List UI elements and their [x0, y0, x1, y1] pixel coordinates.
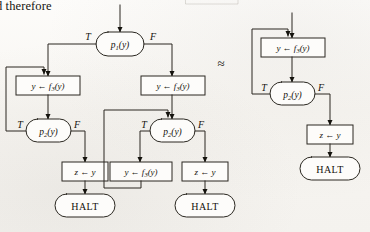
- equivalence-symbol: ≈: [217, 56, 224, 71]
- node-label-assignment-z-left: z ← y: [74, 167, 96, 177]
- cropped-box-artifact: [186, 0, 238, 4]
- edge-label-p2-left-true: T: [17, 119, 24, 130]
- node-label-assignment-loop-false: y ← f3(y): [123, 167, 157, 178]
- node-label-p2-right: p2(y): [162, 127, 182, 138]
- edge-label-p2-rightchart-true: T: [261, 82, 268, 93]
- node-label-assignment-right-top: y ← f3(y): [275, 43, 309, 54]
- node-label-p1: p1(y): [110, 40, 130, 51]
- edge-p1-true: [48, 44, 96, 76]
- edge-label-p2-rightchart-false: F: [317, 82, 325, 93]
- node-label-p2-left: p2(y): [38, 127, 58, 138]
- edge-label-p2-right-true: T: [141, 119, 148, 130]
- edge-label-p2-left-false: F: [73, 119, 81, 130]
- edge-p2-rightchart-false: [315, 94, 330, 125]
- node-label-halt-left: HALT: [71, 201, 98, 212]
- node-label-assignment-z-rightchart: z ← y: [319, 130, 341, 140]
- node-label-assignment-left-true: y ← f3(y): [30, 81, 64, 92]
- flowchart-figure: p1(y) T F y ← f3(y) p2(y) T F z ← y HALT…: [0, 0, 370, 232]
- node-label-p2-rightchart: p2(y): [282, 90, 302, 101]
- edge-p2-right-false: [195, 131, 205, 162]
- edge-label-p2-right-false: F: [197, 119, 205, 130]
- edge-label-p1-true: T: [85, 31, 92, 42]
- node-label-halt-right: HALT: [191, 201, 218, 212]
- node-label-halt-rightchart: HALT: [316, 164, 343, 175]
- edge-p2-left-false: [71, 131, 85, 162]
- node-label-assignment-left-false: y ← f3(y): [155, 81, 189, 92]
- edge-label-p1-false: F: [149, 31, 157, 42]
- edge-p2-right-true: [140, 131, 150, 162]
- node-label-assignment-z-right: z ← y: [194, 167, 216, 177]
- edge-p1-false: [144, 44, 172, 76]
